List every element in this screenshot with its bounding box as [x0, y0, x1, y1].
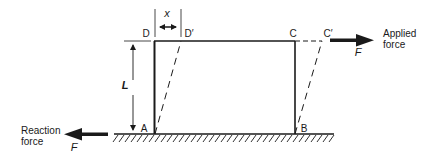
ground-hatching	[113, 135, 334, 142]
applied-force-label-line1: Applied	[383, 28, 416, 39]
reaction-force-label-line2: force	[21, 136, 44, 147]
deformed-edge-BC-prime	[295, 41, 322, 134]
point-D-label: D	[142, 28, 149, 39]
point-B-label: B	[301, 123, 308, 134]
deformed-edge-AD-prime	[155, 41, 181, 134]
point-C-label: C	[289, 28, 296, 39]
point-A-label: A	[141, 123, 148, 134]
reaction-force-arrow	[64, 128, 108, 141]
point-D-prime-label: D′	[184, 28, 193, 39]
L-label: L	[122, 79, 129, 91]
shear-diagram: x L D D′ C C′ A B Applied force F Reacti…	[0, 0, 434, 156]
x-label: x	[163, 7, 170, 19]
applied-force-label-line2: force	[383, 39, 406, 50]
reaction-force-label-line1: Reaction	[21, 125, 60, 136]
point-C-prime-label: C′	[323, 28, 332, 39]
reaction-force-symbol: F	[71, 141, 79, 153]
applied-force-symbol: F	[355, 46, 363, 58]
applied-force-arrow	[330, 34, 374, 47]
